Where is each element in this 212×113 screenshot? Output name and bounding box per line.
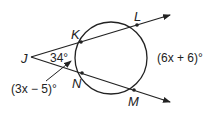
point-n: [80, 71, 84, 75]
label-n: N: [72, 76, 82, 91]
label-m: M: [128, 94, 139, 109]
point-k: [79, 40, 83, 44]
far-arc-label: (6x + 6)°: [157, 51, 203, 65]
angle-label: 34°: [50, 51, 68, 65]
label-k: K: [71, 27, 81, 42]
label-j: J: [20, 51, 28, 66]
label-l: L: [134, 9, 141, 24]
near-arc-label: (3x − 5)°: [11, 82, 57, 96]
point-m: [132, 88, 136, 92]
secant-diagram: J K L N M 34° (3x − 5)° (6x + 6)°: [0, 0, 212, 113]
